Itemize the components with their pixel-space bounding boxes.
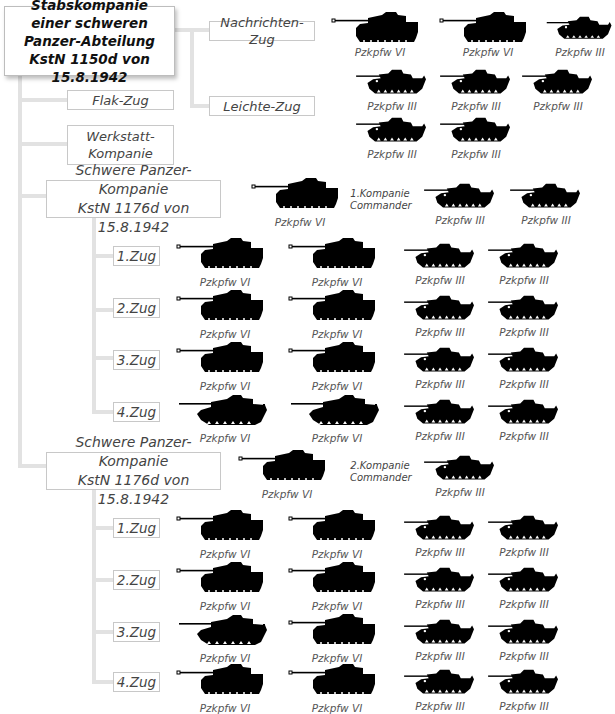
tank-label: Pzkpfw III: [436, 100, 516, 112]
tank-pzkpfw-iii: Pzkpfw III: [484, 292, 564, 338]
tank-label: Pzkpfw III: [545, 46, 615, 58]
tank-label: Pzkpfw III: [484, 326, 564, 338]
leichte-zug-label: Leichte-Zug: [223, 98, 300, 115]
tiger-silhouette-icon: [282, 508, 392, 548]
tank-pzkpfw-iii: Pzkpfw III: [400, 344, 480, 390]
tiger-silhouette-icon: [170, 392, 280, 432]
tank-label: Pzkpfw III: [436, 148, 516, 160]
tank-pzkpfw-vi: Pzkpfw VI: [170, 560, 280, 612]
tiger-silhouette-icon: [170, 560, 280, 600]
panzer-iii-silhouette-icon: [484, 240, 564, 274]
root-line-3: Panzer-Abteilung: [24, 32, 155, 50]
platoon-label: 1.Zug: [117, 248, 156, 265]
company-1-kstn: KstN 1176d von 15.8.1942: [47, 199, 220, 237]
commander-line-2: Commander: [350, 472, 410, 484]
connector-c2-zug4: [92, 680, 114, 684]
tank-label: Pzkpfw III: [420, 486, 500, 498]
panzer-iii-silhouette-icon: [400, 564, 480, 598]
connector-flak: [18, 98, 68, 102]
tank-pzkpfw-iii: Pzkpfw III: [400, 240, 480, 286]
tank-pzkpfw-vi: Pzkpfw VI: [170, 340, 280, 392]
tiger-silhouette-icon: [232, 448, 342, 488]
panzer-iii-silhouette-icon: [400, 396, 480, 430]
company-1-box: Schwere Panzer-Kompanie KstN 1176d von 1…: [46, 180, 221, 218]
tank-label: Pzkpfw III: [484, 274, 564, 286]
panzer-iii-silhouette-icon: [545, 12, 615, 46]
company-2-box: Schwere Panzer-Kompanie KstN 1176d von 1…: [46, 452, 221, 490]
tiger-silhouette-icon: [282, 236, 392, 276]
tiger-silhouette-icon: [325, 10, 435, 50]
tiger-silhouette-icon: [282, 560, 392, 600]
platoon-2-box: 2.Zug: [113, 298, 160, 318]
tank-label: Pzkpfw III: [420, 214, 500, 226]
tank-label: Pzkpfw III: [400, 274, 480, 286]
platoon-3-box: 3.Zug: [113, 622, 160, 642]
nachrichten-zug-box: Nachrichten-Zug: [209, 21, 315, 41]
panzer-iii-silhouette-icon: [400, 616, 480, 650]
tank-pzkpfw-vi: Pzkpfw VI: [282, 392, 392, 444]
tank-label: Pzkpfw VI: [170, 276, 280, 288]
panzer-iii-silhouette-icon: [436, 66, 516, 100]
connector-staff-vertical: [190, 28, 194, 108]
nachrichten-zug-label: Nachrichten-Zug: [210, 14, 314, 48]
commander-line-1: 2.Kompanie: [350, 460, 410, 472]
werkstatt-label-2: Kompanie: [88, 145, 153, 162]
tank-label: Pzkpfw III: [352, 148, 432, 160]
company-1-commander-label: 1.Kompanie Commander: [350, 188, 410, 212]
tank-label: Pzkpfw III: [506, 214, 586, 226]
commander-line-2: Commander: [350, 200, 410, 212]
tank-label: Pzkpfw VI: [282, 276, 392, 288]
tank-label: Pzkpfw III: [400, 650, 480, 662]
tank-label: Pzkpfw III: [400, 326, 480, 338]
connector-c2-vertical: [92, 488, 96, 684]
tank-pzkpfw-vi: Pzkpfw VI: [282, 288, 392, 340]
flak-zug-label: Flak-Zug: [92, 92, 149, 109]
tank-pzkpfw-iii: Pzkpfw III: [400, 616, 480, 662]
connector-werkstatt: [18, 142, 68, 146]
platoon-4-box: 4.Zug: [113, 402, 160, 422]
tank-pzkpfw-iii: Pzkpfw III: [484, 240, 564, 286]
platoon-label: 2.Zug: [117, 300, 156, 317]
connector-c1-zug4: [92, 410, 114, 414]
tank-label: Pzkpfw VI: [282, 702, 392, 714]
tank-label: Pzkpfw III: [400, 546, 480, 558]
tank-pzkpfw-iii: Pzkpfw III: [484, 512, 564, 558]
platoon-label: 1.Zug: [117, 520, 156, 537]
connector-c2-zug2: [92, 578, 114, 582]
panzer-iii-silhouette-icon: [400, 666, 480, 700]
tank-pzkpfw-iii: Pzkpfw III: [484, 344, 564, 390]
tank-pzkpfw-iii: Pzkpfw III: [420, 452, 500, 498]
tank-pzkpfw-iii: Pzkpfw III: [352, 66, 432, 112]
tank-pzkpfw-iii: Pzkpfw III: [400, 512, 480, 558]
tank-pzkpfw-iii: Pzkpfw III: [352, 114, 432, 160]
platoon-2-box: 2.Zug: [113, 570, 160, 590]
tank-label: Pzkpfw III: [484, 700, 564, 712]
panzer-iii-silhouette-icon: [400, 292, 480, 326]
tank-pzkpfw-vi: Pzkpfw VI: [282, 662, 392, 714]
company-1-hq-tank: Pzkpfw VI: [245, 176, 355, 228]
panzer-iii-silhouette-icon: [484, 344, 564, 378]
tank-label: Pzkpfw VI: [325, 46, 435, 58]
tiger-silhouette-icon: [282, 288, 392, 328]
werkstatt-label-1: Werkstatt-: [86, 128, 154, 145]
panzer-iii-silhouette-icon: [518, 66, 598, 100]
tank-label: Pzkpfw III: [484, 598, 564, 610]
tiger-silhouette-icon: [170, 340, 280, 380]
tiger-silhouette-icon: [170, 612, 280, 652]
platoon-label: 4.Zug: [117, 404, 156, 421]
tank-label: Pzkpfw III: [518, 100, 598, 112]
root-line-2: einer schweren: [31, 14, 148, 32]
panzer-iii-silhouette-icon: [484, 666, 564, 700]
tank-pzkpfw-vi: Pzkpfw VI: [433, 10, 543, 58]
connector-c1-zug2: [92, 308, 114, 312]
tank-pzkpfw-vi: Pzkpfw VI: [170, 236, 280, 288]
panzer-iii-silhouette-icon: [484, 512, 564, 546]
tank-label: Pzkpfw III: [484, 430, 564, 442]
tank-label: Pzkpfw VI: [232, 488, 342, 500]
tank-label: Pzkpfw VI: [170, 548, 280, 560]
tank-label: Pzkpfw III: [400, 700, 480, 712]
tank-pzkpfw-iii: Pzkpfw III: [484, 396, 564, 442]
tiger-silhouette-icon: [282, 612, 392, 652]
tank-pzkpfw-vi: Pzkpfw VI: [282, 560, 392, 612]
tank-label: Pzkpfw VI: [282, 600, 392, 612]
